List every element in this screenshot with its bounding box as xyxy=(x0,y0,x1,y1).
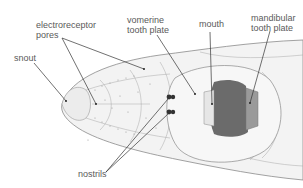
mandibular-tooth-plate xyxy=(246,88,258,130)
label-nostrils: nostrils xyxy=(78,169,107,179)
label-mouth: mouth xyxy=(199,19,224,29)
label-vomerine-tooth-plate: vomerine tooth plate xyxy=(127,15,169,35)
label-mandibular-tooth-plate: mandibular tooth plate xyxy=(251,13,296,33)
diagram: electroreceptor pores vomerine tooth pla… xyxy=(0,0,303,188)
vomerine-tooth-plate xyxy=(204,90,214,126)
label-snout: snout xyxy=(14,53,36,63)
label-electroreceptor-pores: electroreceptor pores xyxy=(36,20,96,40)
mouth-shape xyxy=(210,80,249,137)
